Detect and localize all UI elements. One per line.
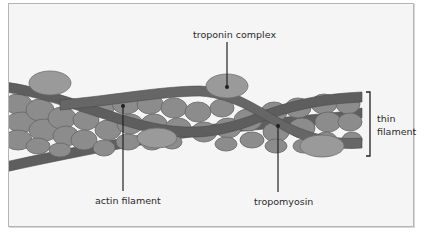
actin-leader-dot	[122, 105, 125, 108]
label-tropomyosin: tropomyosin	[254, 196, 313, 207]
label-actin-filament: actin filament	[95, 195, 161, 206]
troponin-complex	[29, 71, 71, 95]
thin-filament-bracket	[366, 92, 370, 156]
label-thin: thin	[377, 113, 395, 124]
tropomyosin-leader-dot	[277, 125, 280, 128]
troponin-complex	[137, 128, 177, 148]
troponin-complex	[300, 135, 344, 157]
troponin-leader-dot	[226, 86, 229, 89]
label-troponin-complex: troponin complex	[193, 29, 276, 40]
label-filament: filament	[377, 126, 416, 137]
